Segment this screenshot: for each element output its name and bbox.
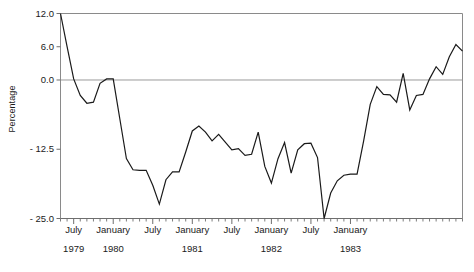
- x-axis-month-label: July: [223, 224, 240, 235]
- x-axis-year-label: 1983: [340, 243, 361, 254]
- data-series-line: [61, 14, 463, 219]
- x-axis-year-label: 1980: [103, 243, 124, 254]
- x-axis-year-label: 1979: [63, 243, 84, 254]
- x-axis-month-label: January: [254, 224, 288, 235]
- y-axis-ticks: [57, 14, 61, 219]
- chart-figure: Percentage 12.06.00.0- 12.5- 25.0 July19…: [0, 0, 474, 272]
- x-axis-month-label: July: [302, 224, 319, 235]
- plot-frame: [61, 14, 463, 219]
- x-axis-month-label: January: [334, 224, 368, 235]
- x-axis-month-label: January: [175, 224, 209, 235]
- x-axis-year-label: 1982: [261, 243, 282, 254]
- x-axis-month-label: July: [65, 224, 82, 235]
- x-axis-month-label: January: [96, 224, 130, 235]
- x-axis-month-label: July: [144, 224, 161, 235]
- x-axis-year-label: 1981: [182, 243, 203, 254]
